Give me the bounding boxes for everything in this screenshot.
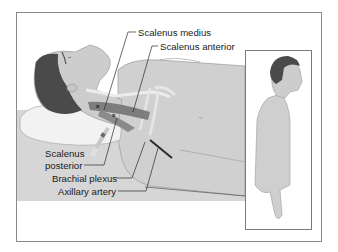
label-axillary-artery: Axillary artery	[58, 186, 116, 197]
label-scalenus-posterior-line2: posterior	[45, 160, 82, 171]
illustration-figure: x x Scalenus medius Scalenus anterior Sc…	[0, 0, 338, 252]
label-scalenus-posterior-line1: Scalenus	[45, 148, 84, 159]
ear	[67, 84, 77, 92]
label-brachial-plexus: Brachial plexus	[52, 173, 117, 184]
torso-lying	[117, 60, 245, 196]
label-scalenus-anterior: Scalenus anterior	[160, 41, 235, 52]
label-scalenus-medius: Scalenus medius	[138, 27, 211, 38]
